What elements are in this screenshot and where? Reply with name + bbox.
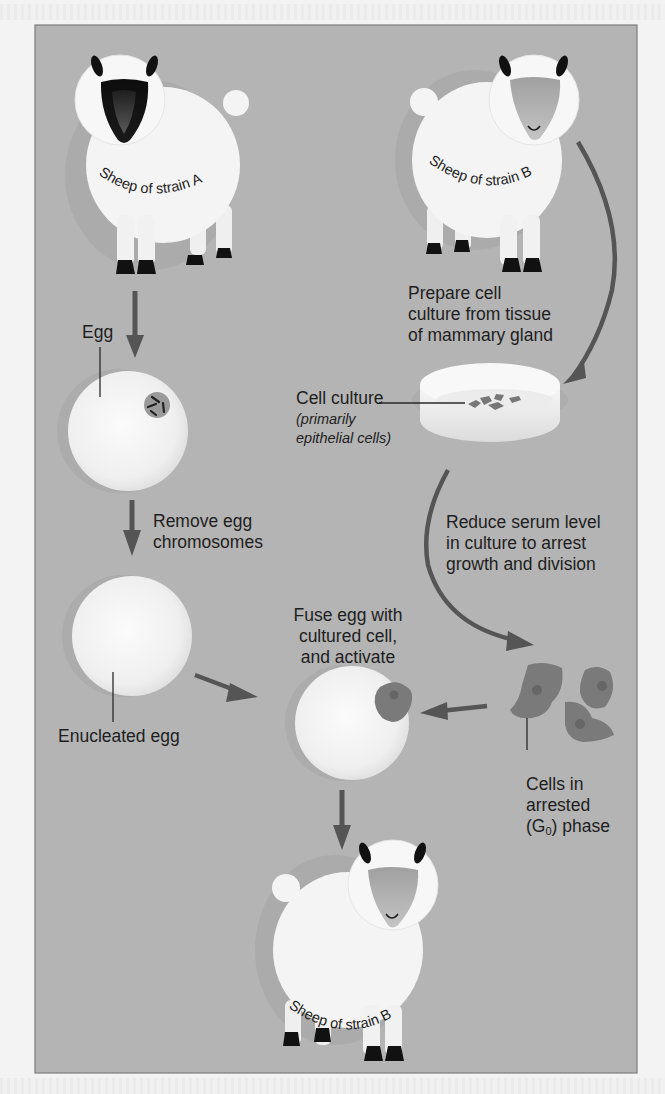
label-fuse-line3: and activate bbox=[285, 647, 411, 668]
label-reduce-line1: Reduce serum level bbox=[446, 512, 601, 533]
label-reduce-line2: in culture to arrest bbox=[446, 533, 601, 554]
egg bbox=[57, 369, 188, 493]
label-remove-chromosomes-line2: chromosomes bbox=[153, 532, 263, 553]
label-reduce-serum: Reduce serum level in culture to arrest … bbox=[446, 512, 601, 575]
label-enucleated-egg: Enucleated egg bbox=[58, 726, 180, 747]
label-prepare-line2: culture from tissue bbox=[408, 304, 553, 325]
label-arrested-line3: (G0) phase bbox=[526, 816, 610, 842]
label-arrested-suffix: ) phase bbox=[552, 816, 610, 836]
label-cell-culture-note-line1: (primarily bbox=[296, 410, 391, 429]
label-remove-chromosomes-line1: Remove egg bbox=[153, 511, 263, 532]
label-remove-chromosomes: Remove egg chromosomes bbox=[153, 511, 263, 553]
label-arrested-line2: arrested bbox=[526, 795, 610, 816]
enucleated-egg bbox=[62, 575, 192, 697]
label-arrested-line1: Cells in bbox=[526, 774, 610, 795]
label-cell-culture-note-line2: epithelial cells) bbox=[296, 429, 391, 448]
label-prepare-line1: Prepare cell bbox=[408, 283, 553, 304]
label-reduce-line3: growth and division bbox=[446, 554, 601, 575]
label-prepare-line3: of mammary gland bbox=[408, 325, 553, 346]
label-arrested-prefix: (G bbox=[526, 816, 545, 836]
label-cell-culture-note: (primarily epithelial cells) bbox=[296, 410, 391, 448]
label-fuse-egg: Fuse egg with cultured cell, and activat… bbox=[285, 605, 411, 668]
label-prepare-culture: Prepare cell culture from tissue of mamm… bbox=[408, 283, 553, 346]
label-fuse-line1: Fuse egg with bbox=[285, 605, 411, 626]
label-cell-culture: Cell culture bbox=[296, 388, 384, 409]
label-egg: Egg bbox=[82, 322, 113, 343]
label-fuse-line2: cultured cell, bbox=[285, 626, 411, 647]
label-arrested-cells: Cells in arrested (G0) phase bbox=[526, 774, 610, 842]
